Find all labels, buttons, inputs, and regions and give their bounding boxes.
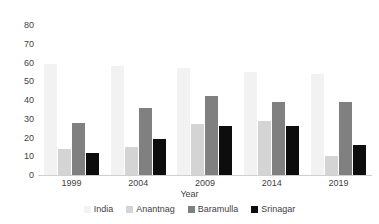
y-axis-tick: 80 [0,21,34,30]
legend-item[interactable]: Anantnag [126,205,175,214]
bar[interactable] [86,153,99,176]
legend-label: Anantnag [136,205,175,214]
legend-item[interactable]: Srinagar [251,205,295,214]
legend-swatch-icon [84,206,91,213]
bar[interactable] [258,121,271,175]
legend-item[interactable]: India [84,205,114,214]
bar[interactable] [153,139,166,175]
bar[interactable] [58,149,71,175]
x-axis-title: Year [0,189,379,200]
bar[interactable] [205,96,218,175]
bar[interactable] [353,145,366,175]
bar-group [105,25,172,175]
legend-item[interactable]: Baramulla [188,205,239,214]
legend: IndiaAnantnagBaramullaSrinagar [0,205,379,214]
bar[interactable] [125,147,138,175]
bar[interactable] [191,124,204,175]
legend-swatch-icon [126,206,133,213]
plot-area [38,25,372,175]
legend-label: Baramulla [198,205,239,214]
bar-group [305,25,372,175]
y-axis-tick: 20 [0,133,34,142]
bar[interactable] [44,64,57,175]
bar[interactable] [177,68,190,175]
bar[interactable] [325,156,338,175]
y-axis-tick: 40 [0,96,34,105]
y-axis: 80 70 60 50 40 30 20 10 0 [0,25,34,175]
bar-chart: 80 70 60 50 40 30 20 10 0 19992004200920… [0,0,379,224]
bar[interactable] [72,123,85,176]
bar[interactable] [339,102,352,175]
bar[interactable] [286,126,299,175]
bar[interactable] [219,126,232,175]
legend-label: Srinagar [261,205,295,214]
y-axis-tick: 30 [0,114,34,123]
legend-label: India [94,205,114,214]
bar[interactable] [272,102,285,175]
y-axis-tick: 0 [0,171,34,180]
bar-group [172,25,239,175]
y-axis-tick: 70 [0,39,34,48]
bar[interactable] [139,108,152,176]
legend-swatch-icon [188,206,195,213]
bar[interactable] [111,66,124,175]
x-axis-line [38,175,372,176]
bar[interactable] [244,72,257,175]
legend-swatch-icon [251,206,258,213]
bar[interactable] [311,74,324,175]
bar-group [38,25,105,175]
bar-group [238,25,305,175]
y-axis-tick: 10 [0,152,34,161]
y-axis-tick: 50 [0,77,34,86]
y-axis-tick: 60 [0,58,34,67]
